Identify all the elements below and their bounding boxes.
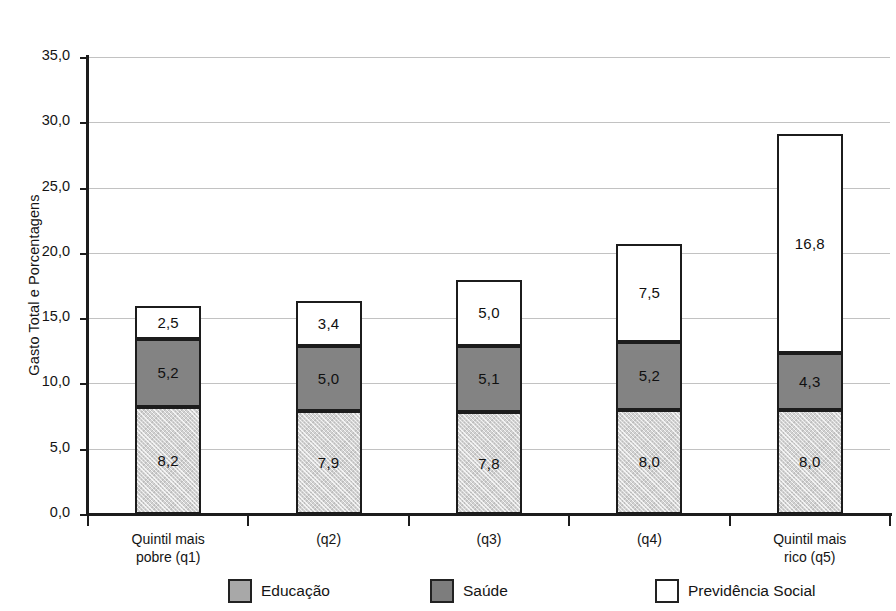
- legend-swatch-previdencia-icon: [655, 579, 679, 603]
- bar-segment-value-label: 16,8: [795, 235, 825, 252]
- y-axis-tick-label: 10,0: [12, 373, 70, 389]
- bar-group[interactable]: 8,25,22,5: [135, 57, 201, 514]
- bar-group[interactable]: 8,04,316,8: [777, 57, 843, 514]
- x-axis-category-label-line: (q3): [399, 530, 579, 548]
- x-axis-category-label: (q3): [399, 530, 579, 548]
- bar-group[interactable]: 8,05,27,5: [616, 57, 682, 514]
- legend-swatch-saude-icon: [430, 579, 454, 603]
- legend-swatch-educacao-icon: [228, 579, 252, 603]
- x-axis-tick: [729, 515, 731, 526]
- bar-segment-educacao[interactable]: 7,8: [456, 412, 522, 514]
- legend-item-educacao[interactable]: Educação: [228, 576, 330, 606]
- bar-segment-educacao[interactable]: 8,0: [777, 410, 843, 514]
- bar-segment-educacao[interactable]: 8,0: [616, 410, 682, 514]
- bar-segment-educacao[interactable]: 7,9: [296, 411, 362, 514]
- bar-segment-value-label: 8,0: [639, 453, 660, 470]
- bar-segment-previdencia[interactable]: 7,5: [616, 244, 682, 342]
- y-axis-tick-label: 0,0: [12, 504, 70, 520]
- bar-segment-value-label: 7,8: [478, 455, 499, 472]
- bar-segment-value-label: 7,9: [318, 454, 339, 471]
- bar-segment-value-label: 3,4: [318, 315, 339, 332]
- y-axis-tick-label: 20,0: [12, 243, 70, 259]
- x-axis-category-label: (q2): [239, 530, 419, 548]
- bar-group[interactable]: 7,95,03,4: [296, 57, 362, 514]
- bar-segment-educacao[interactable]: 8,2: [135, 407, 201, 514]
- x-axis-category-label: (q4): [559, 530, 739, 548]
- bar-segment-value-label: 5,2: [157, 364, 178, 381]
- stacked-bar-chart: Gasto Total e Porcentagens 35,030,025,02…: [0, 0, 896, 611]
- x-axis-tick: [568, 515, 570, 526]
- x-axis-category-label: Quintil maispobre (q1): [78, 530, 258, 566]
- x-axis-tick: [889, 515, 891, 526]
- bar-segment-previdencia[interactable]: 16,8: [777, 134, 843, 353]
- x-axis-category-label-line: (q4): [559, 530, 739, 548]
- x-axis-tick: [87, 515, 89, 526]
- bar-group[interactable]: 7,85,15,0: [456, 57, 522, 514]
- x-axis-category-label-line: pobre (q1): [78, 548, 258, 566]
- bar-segment-saude[interactable]: 5,2: [616, 342, 682, 410]
- legend-label: Saúde: [463, 582, 508, 600]
- x-axis-tick: [247, 515, 249, 526]
- y-axis-tick-label: 35,0: [12, 47, 70, 63]
- bar-segment-value-label: 5,0: [478, 304, 499, 321]
- y-axis-tick-label: 15,0: [12, 308, 70, 324]
- y-axis-tick-label: 5,0: [12, 439, 70, 455]
- x-axis-category-label-line: Quintil mais: [720, 530, 896, 548]
- bar-segment-value-label: 5,0: [318, 370, 339, 387]
- bar-segment-saude[interactable]: 5,1: [456, 346, 522, 413]
- x-axis-category-label: Quintil maisrico (q5): [720, 530, 896, 566]
- bar-segment-saude[interactable]: 5,2: [135, 339, 201, 407]
- bar-segment-previdencia[interactable]: 3,4: [296, 301, 362, 345]
- legend-item-previdencia[interactable]: Previdência Social: [655, 576, 816, 606]
- legend-item-saude[interactable]: Saúde: [430, 576, 508, 606]
- bar-segment-value-label: 8,2: [157, 452, 178, 469]
- bar-segment-value-label: 7,5: [639, 284, 660, 301]
- y-axis-tick-label: 25,0: [12, 178, 70, 194]
- x-axis-tick: [408, 515, 410, 526]
- y-axis-tick-label: 30,0: [12, 112, 70, 128]
- chart-legend: EducaçãoSaúdePrevidência Social: [0, 576, 896, 611]
- x-axis-category-label-line: (q2): [239, 530, 419, 548]
- bar-segment-value-label: 8,0: [799, 453, 820, 470]
- bar-segment-previdencia[interactable]: 2,5: [135, 306, 201, 339]
- bar-segment-value-label: 5,2: [639, 367, 660, 384]
- bar-segment-saude[interactable]: 5,0: [296, 346, 362, 411]
- bar-segment-value-label: 5,1: [478, 370, 499, 387]
- bar-segment-value-label: 4,3: [799, 373, 820, 390]
- bar-segment-previdencia[interactable]: 5,0: [456, 280, 522, 345]
- bar-segment-value-label: 2,5: [157, 314, 178, 331]
- x-axis-category-label-line: Quintil mais: [78, 530, 258, 548]
- plot-area: 8,25,22,57,95,03,47,85,15,08,05,27,58,04…: [88, 57, 890, 514]
- legend-label: Educação: [261, 582, 330, 600]
- bar-segment-saude[interactable]: 4,3: [777, 353, 843, 409]
- legend-label: Previdência Social: [688, 582, 816, 600]
- x-axis-category-label-line: rico (q5): [720, 548, 896, 566]
